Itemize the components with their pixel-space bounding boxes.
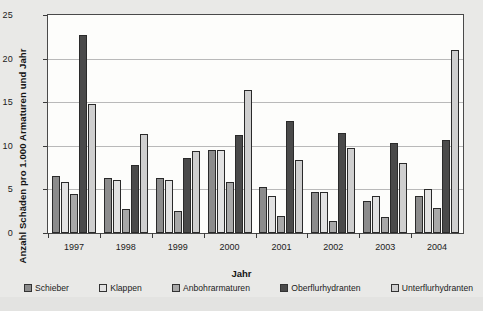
- chart-legend: SchieberKlappenAnbohrarmaturenOberflurhy…: [24, 283, 473, 293]
- x-axis-title: Jahr: [0, 268, 483, 279]
- x-tick-label: 2001: [271, 242, 291, 252]
- bar: [156, 178, 164, 233]
- y-tick-mark: [43, 146, 47, 147]
- y-tick-mark: [43, 59, 47, 60]
- bar: [415, 196, 423, 233]
- x-tick-mark: [411, 233, 412, 238]
- bar: [235, 135, 243, 233]
- legend-swatch-icon: [172, 284, 180, 292]
- bar: [372, 196, 380, 233]
- y-tick-label: 25: [0, 10, 13, 20]
- legend-item[interactable]: Oberflurhydranten: [280, 283, 360, 293]
- bar-group: 1998: [100, 15, 152, 233]
- x-tick-mark: [256, 233, 257, 238]
- bar: [424, 189, 432, 233]
- bar: [61, 182, 69, 233]
- bar: [104, 178, 112, 233]
- legend-label: Schieber: [35, 283, 69, 293]
- bar: [174, 211, 182, 233]
- bar-group: 1997: [48, 15, 100, 233]
- bar: [217, 150, 225, 233]
- legend-item[interactable]: Anbohrarmaturen: [172, 283, 250, 293]
- bar: [113, 180, 121, 233]
- bar: [320, 192, 328, 233]
- bar: [226, 182, 234, 233]
- legend-label: Unterflurhydranten: [402, 283, 473, 293]
- x-tick-label: 2003: [375, 242, 395, 252]
- bar-group: 1999: [152, 15, 204, 233]
- bar: [451, 50, 459, 233]
- bar-group: 2002: [307, 15, 359, 233]
- bar: [140, 134, 148, 233]
- bar: [295, 160, 303, 233]
- bar: [70, 194, 78, 233]
- bar: [268, 196, 276, 233]
- x-tick-mark: [307, 233, 308, 238]
- bar-group: 2003: [359, 15, 411, 233]
- y-tick-label: 15: [0, 97, 13, 107]
- bar: [338, 133, 346, 233]
- bar: [259, 187, 267, 233]
- y-tick-mark: [43, 233, 47, 234]
- y-tick-label: 5: [0, 184, 13, 194]
- y-tick-mark: [43, 189, 47, 190]
- bar: [286, 121, 294, 233]
- legend-item[interactable]: Unterflurhydranten: [391, 283, 473, 293]
- legend-swatch-icon: [99, 284, 107, 292]
- x-tick-label: 2004: [427, 242, 447, 252]
- x-tick-label: 1999: [168, 242, 188, 252]
- legend-swatch-icon: [391, 284, 399, 292]
- bar: [192, 151, 200, 233]
- bar: [88, 104, 96, 233]
- x-tick-label: 2002: [323, 242, 343, 252]
- bar-group: 2001: [256, 15, 308, 233]
- x-tick-mark: [359, 233, 360, 238]
- y-axis-title: Anzahl Schäden pro 1.000 Armaturen und J…: [17, 36, 28, 276]
- bar-group: 2004: [411, 15, 463, 233]
- bar-groups: 19971998199920002001200220032004: [48, 15, 463, 233]
- x-tick-mark: [100, 233, 101, 238]
- chart-figure: Anzahl Schäden pro 1.000 Armaturen und J…: [0, 0, 483, 311]
- bar: [244, 90, 252, 233]
- bar: [79, 35, 87, 233]
- bar: [329, 221, 337, 233]
- footer-strip: [0, 297, 483, 311]
- bar: [208, 150, 216, 233]
- legend-label: Anbohrarmaturen: [183, 283, 250, 293]
- y-tick-label: 20: [0, 54, 13, 64]
- bar: [183, 158, 191, 233]
- bar: [131, 165, 139, 233]
- bar: [277, 216, 285, 233]
- x-tick-label: 2000: [220, 242, 240, 252]
- legend-swatch-icon: [24, 284, 32, 292]
- y-tick-label: 10: [0, 141, 13, 151]
- bar: [363, 201, 371, 233]
- x-tick-mark: [204, 233, 205, 238]
- bar: [381, 217, 389, 233]
- x-tick-mark: [152, 233, 153, 238]
- x-tick-label: 1998: [116, 242, 136, 252]
- bar: [52, 176, 60, 233]
- bar: [399, 163, 407, 233]
- bar: [311, 192, 319, 233]
- bar: [442, 140, 450, 233]
- y-tick-mark: [43, 102, 47, 103]
- x-tick-mark: [48, 233, 49, 238]
- bar: [165, 180, 173, 233]
- bar-group: 2000: [204, 15, 256, 233]
- legend-label: Oberflurhydranten: [291, 283, 360, 293]
- bar: [347, 148, 355, 233]
- y-tick-label: 0: [0, 228, 13, 238]
- x-tick-label: 1997: [64, 242, 84, 252]
- y-tick-mark: [43, 15, 47, 16]
- legend-swatch-icon: [280, 284, 288, 292]
- legend-item[interactable]: Schieber: [24, 283, 69, 293]
- legend-item[interactable]: Klappen: [99, 283, 142, 293]
- legend-label: Klappen: [110, 283, 142, 293]
- bar: [122, 209, 130, 233]
- bar: [433, 208, 441, 233]
- bar: [390, 143, 398, 233]
